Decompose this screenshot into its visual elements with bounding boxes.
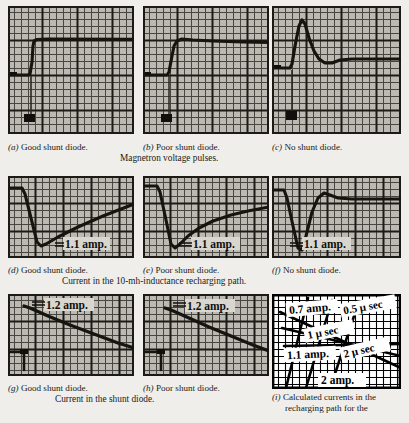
- scope-panel-c: [272, 6, 401, 134]
- panel-caption-text-h: Poor shunt diode.: [156, 383, 220, 393]
- scope-grid-e: 1.1 amp.: [143, 176, 269, 258]
- panel-caption-text-d: Good shunt diode.: [21, 265, 88, 275]
- annotation-d: 1.1 amp.: [55, 237, 110, 251]
- group-caption-magnetron: Magnetron voltage pulses.: [120, 153, 218, 163]
- svg-text:1.2 amp.: 1.2 amp.: [46, 299, 88, 312]
- panel-caption-e: (e) Poor shunt diode.: [143, 265, 219, 276]
- scope-panel-b: [143, 6, 269, 134]
- panel-label-e: (e): [143, 265, 153, 275]
- group-caption-shunt-diode: Current in the shunt diode.: [55, 394, 154, 404]
- panel-label-h: (h): [143, 383, 154, 393]
- panel-label-c: (c): [272, 142, 282, 152]
- panel-caption-text-i-line2: recharging path for the: [272, 403, 409, 414]
- scope-panel-g: 1.2 amp.: [8, 294, 134, 376]
- panel-caption-i: (i) Calculated currents in the rechargin…: [272, 392, 409, 415]
- panel-caption-text-f: No shunt diode.: [283, 265, 341, 275]
- group-caption-inductance: Current in the 10-mh-inductance rechargi…: [62, 276, 246, 286]
- panel-caption-f: (f) No shunt diode.: [272, 265, 341, 276]
- panel-caption-d: (d) Good shunt diode.: [8, 265, 88, 276]
- panel-caption-text-g: Good shunt diode.: [21, 383, 88, 393]
- scope-grid-g: 1.2 amp.: [8, 294, 134, 376]
- panel-caption-h: (h) Poor shunt diode.: [143, 383, 220, 394]
- scope-panel-f: 1.1 amp.: [272, 176, 401, 258]
- svg-text:1.2 amp.: 1.2 amp.: [187, 300, 229, 313]
- annotation-i-2-amp: 2 amp.: [318, 373, 366, 387]
- scope-panel-e: 1.1 amp.: [143, 176, 269, 258]
- panel-label-i: (i): [272, 392, 281, 402]
- panel-label-b: (b): [143, 142, 154, 152]
- panel-caption-g: (g) Good shunt diode.: [8, 383, 88, 394]
- scope-panel-h: 1.2 amp.: [143, 294, 269, 376]
- panel-label-g: (g): [8, 383, 19, 393]
- panel-caption-c: (c) No shunt diode.: [272, 142, 342, 153]
- scope-grid-i: 0.7 amp. 0.5 μ sec 1 μ sec 1.1 amp. 2 μ …: [272, 294, 401, 389]
- scope-panel-i: 0.7 amp. 0.5 μ sec 1 μ sec 1.1 amp. 2 μ …: [272, 294, 401, 389]
- scope-grid-h: 1.2 amp.: [143, 294, 269, 376]
- panel-caption-text-a: Good shunt diode.: [21, 142, 88, 152]
- figure-oscilloscope-traces: (a) Good shunt diode. (b) Poor shunt dio…: [0, 0, 409, 423]
- panel-caption-b: (b) Poor shunt diode.: [143, 142, 220, 153]
- scope-grid-f: 1.1 amp.: [272, 176, 401, 258]
- svg-text:1.1 amp.: 1.1 amp.: [304, 238, 346, 251]
- scope-grid-a: [8, 6, 134, 134]
- scope-grid-d: 1.1 amp.: [8, 176, 134, 258]
- panel-label-a: (a): [8, 142, 19, 152]
- panel-label-f: (f): [272, 265, 281, 275]
- scope-grid-c: [272, 6, 401, 134]
- scope-panel-d: 1.1 amp.: [8, 176, 134, 258]
- panel-caption-text-i-line1: Calculated currents in the: [283, 392, 376, 402]
- panel-caption-a: (a) Good shunt diode.: [8, 142, 88, 153]
- panel-caption-text-b: Poor shunt diode.: [156, 142, 220, 152]
- panel-label-d: (d): [8, 265, 19, 275]
- panel-caption-text-c: No shunt diode.: [284, 142, 342, 152]
- scope-panel-a: [8, 6, 134, 134]
- annotation-i-1-1-amp: 1.1 amp.: [284, 346, 337, 363]
- svg-text:2 amp.: 2 amp.: [321, 374, 354, 387]
- svg-text:1.1 amp.: 1.1 amp.: [65, 238, 107, 251]
- scope-grid-b: [143, 6, 269, 134]
- svg-text:1.1 amp.: 1.1 amp.: [193, 238, 235, 251]
- panel-caption-text-e: Poor shunt diode.: [155, 265, 219, 275]
